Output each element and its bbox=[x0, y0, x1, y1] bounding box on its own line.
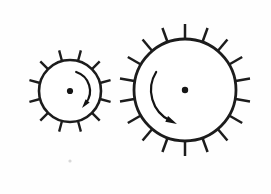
paper-specks bbox=[68, 159, 71, 162]
gear-diagram-canvas bbox=[0, 0, 271, 194]
gear-diagram-figure bbox=[0, 0, 271, 194]
small-gear-center-dot bbox=[67, 88, 73, 94]
paper-speck bbox=[68, 159, 71, 162]
small-gear bbox=[29, 50, 110, 131]
large-gear-center-dot bbox=[182, 87, 188, 93]
